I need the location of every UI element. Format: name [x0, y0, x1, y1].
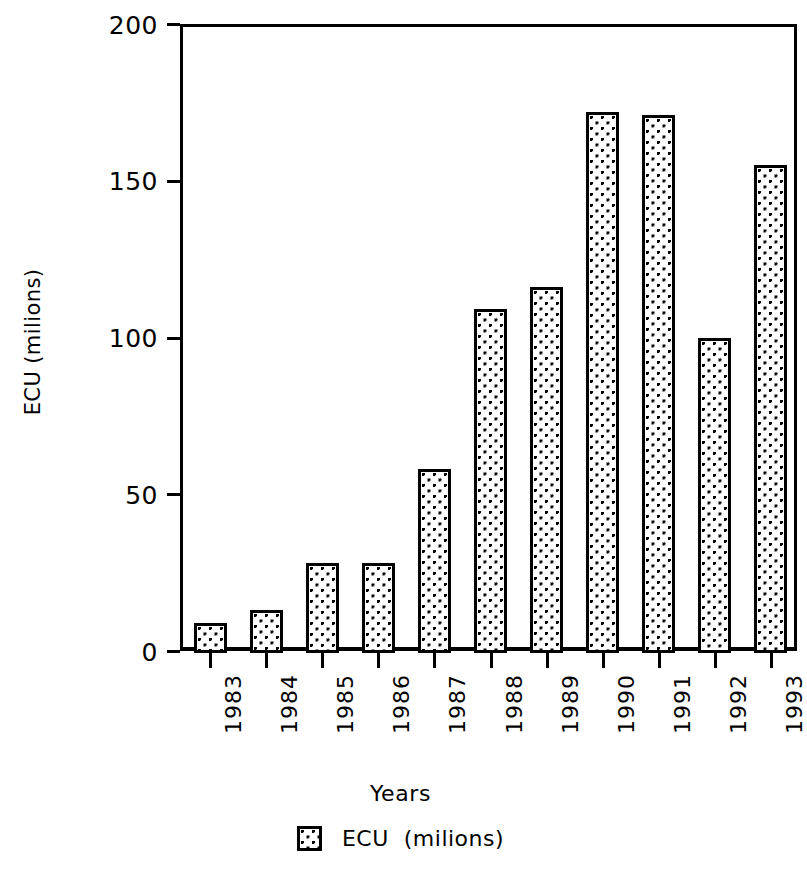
x-tick-label: 1991 — [670, 674, 695, 794]
legend-label: ECU (milions) — [342, 826, 504, 851]
y-tick-label: 100 — [109, 324, 158, 353]
x-tick-label: 1993 — [782, 674, 807, 794]
plot-right-border — [794, 24, 797, 651]
bar — [754, 165, 787, 653]
x-tick-label: 1987 — [445, 674, 470, 794]
y-tick-label: 0 — [142, 637, 158, 666]
y-tick-mark: 100 — [167, 337, 180, 340]
bar — [586, 112, 619, 653]
x-tick-mark — [658, 651, 661, 668]
x-tick-mark — [321, 651, 324, 668]
y-tick-label: 200 — [109, 10, 158, 39]
bar — [194, 623, 227, 653]
y-tick-label: 150 — [109, 167, 158, 196]
y-tick-mark: 50 — [167, 493, 180, 496]
bar — [418, 469, 451, 653]
bar — [474, 309, 507, 653]
bar — [698, 338, 731, 654]
plot-top-border — [180, 24, 797, 27]
x-tick-mark — [490, 651, 493, 668]
x-tick-label: 1990 — [614, 674, 639, 794]
x-tick-label: 1988 — [502, 674, 527, 794]
x-tick-label: 1989 — [558, 674, 583, 794]
x-tick-label: 1984 — [277, 674, 302, 794]
chart-legend: ECU (milions) — [0, 826, 801, 851]
x-tick-mark — [209, 651, 212, 668]
bar — [362, 563, 395, 653]
x-tick-mark — [770, 651, 773, 668]
y-axis-title: ECU (milions) — [21, 212, 45, 472]
x-tick-mark — [265, 651, 268, 668]
y-tick-mark: 200 — [167, 23, 180, 26]
legend-swatch-icon — [297, 826, 322, 851]
y-tick-mark: 150 — [167, 180, 180, 183]
bar — [530, 287, 563, 653]
x-tick-label: 1986 — [389, 674, 414, 794]
x-tick-mark — [546, 651, 549, 668]
x-tick-mark — [377, 651, 380, 668]
x-tick-mark — [433, 651, 436, 668]
bar — [642, 115, 675, 653]
bar — [306, 563, 339, 653]
x-tick-label: 1985 — [333, 674, 358, 794]
x-tick-label: 1992 — [726, 674, 751, 794]
y-axis-line — [180, 24, 183, 651]
x-axis-title: Years — [0, 781, 801, 806]
x-tick-label: 1983 — [221, 674, 246, 794]
bar — [250, 610, 283, 653]
y-tick-label: 50 — [125, 480, 158, 509]
plot-area: 050100150200 198319841985198619871988198… — [180, 24, 797, 651]
x-tick-mark — [714, 651, 717, 668]
y-tick-mark: 0 — [167, 650, 180, 653]
x-tick-mark — [602, 651, 605, 668]
